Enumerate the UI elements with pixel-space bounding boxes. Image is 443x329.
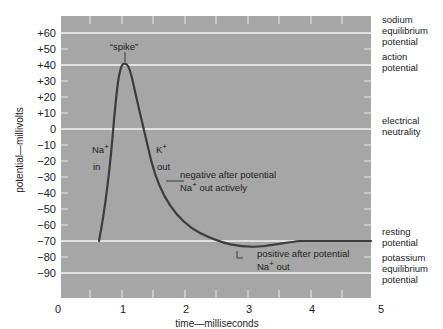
right-labels: sodium equilibrium potential action pote… — [382, 14, 428, 285]
y-tick-label: −70 — [37, 235, 56, 247]
x-axis-title: time—milliseconds — [175, 318, 258, 329]
svg-text:potential: potential — [382, 237, 418, 248]
y-tick-label: 0 — [50, 123, 56, 135]
y-tick-label: +10 — [37, 107, 56, 119]
x-tick-label: 2 — [183, 303, 189, 315]
x-tick-label: 5 — [378, 303, 384, 315]
x-tick-labels: 0 1 2 3 4 5 — [55, 303, 384, 315]
y-tick-label: −90 — [37, 267, 56, 279]
svg-text:negative after potential: negative after potential — [180, 169, 276, 180]
svg-text:neutrality: neutrality — [382, 126, 421, 137]
y-tick-label: −50 — [37, 203, 56, 215]
svg-text:Na+ out actively: Na+ out actively — [180, 180, 247, 193]
svg-text:potential: potential — [382, 62, 418, 73]
svg-text:resting: resting — [382, 226, 411, 237]
x-tick-label: 0 — [55, 303, 61, 315]
y-tick-label: −80 — [37, 251, 56, 263]
y-tick-label: +50 — [37, 43, 56, 55]
x-tick-label: 4 — [309, 303, 315, 315]
x-tick-label: 3 — [246, 303, 252, 315]
action-potential-chart: +60 +50 +40 +30 +20 +10 0 −10 −20 −30 −4… — [0, 0, 443, 329]
potassium-equilibrium-label: potassium equilibrium potential — [382, 252, 428, 285]
svg-text:potential: potential — [382, 274, 418, 285]
electrical-neutrality-label: electrical neutrality — [382, 115, 421, 137]
y-axis-title: potential—millivolts — [14, 107, 25, 193]
svg-text:equilibrium: equilibrium — [382, 263, 428, 274]
y-tick-label: −20 — [37, 155, 56, 167]
svg-text:out: out — [157, 161, 171, 172]
y-tick-label: +40 — [37, 59, 56, 71]
y-tick-label: +60 — [37, 27, 56, 39]
svg-text:equilibrium: equilibrium — [382, 25, 428, 36]
y-tick-label: +20 — [37, 91, 56, 103]
y-tick-label: −30 — [37, 171, 56, 183]
svg-text:potential: potential — [382, 36, 418, 47]
svg-text:action: action — [382, 51, 407, 62]
x-tick-label: 1 — [120, 303, 126, 315]
y-tick-label: −60 — [37, 219, 56, 231]
sodium-equilibrium-label: sodium equilibrium potential — [382, 14, 428, 47]
y-tick-label: −10 — [37, 139, 56, 151]
y-tick-label: +30 — [37, 75, 56, 87]
svg-text:in: in — [93, 161, 100, 172]
spike-label: “spike” — [110, 41, 139, 52]
y-tick-labels: +60 +50 +40 +30 +20 +10 0 −10 −20 −30 −4… — [37, 27, 56, 279]
svg-text:potassium: potassium — [382, 252, 425, 263]
svg-text:electrical: electrical — [382, 115, 420, 126]
action-potential-label: action potential — [382, 51, 418, 73]
svg-text:sodium: sodium — [382, 14, 413, 25]
svg-text:positive after potential: positive after potential — [257, 248, 349, 259]
y-tick-label: −40 — [37, 187, 56, 199]
resting-potential-label: resting potential — [382, 226, 418, 248]
svg-text:Na+ out: Na+ out — [257, 259, 290, 272]
